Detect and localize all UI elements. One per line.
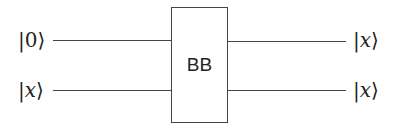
black-box-gate: BB bbox=[171, 7, 228, 123]
output-ket-top: |x⟩ bbox=[353, 30, 379, 50]
ket-symbol: x bbox=[360, 28, 371, 52]
quantum-circuit-diagram: |0⟩ |x⟩ BB |x⟩ |x⟩ bbox=[0, 0, 396, 129]
output-ket-bottom: |x⟩ bbox=[353, 80, 379, 100]
output-wire-bottom bbox=[228, 90, 346, 91]
ket-angle: ⟩ bbox=[371, 28, 379, 52]
ket-symbol: x bbox=[360, 78, 371, 102]
input-ket-0: |0⟩ bbox=[18, 30, 45, 50]
input-ket-x: |x⟩ bbox=[18, 80, 44, 100]
ket-bar: | bbox=[18, 78, 25, 102]
ket-bar: | bbox=[353, 28, 360, 52]
ket-angle: ⟩ bbox=[371, 78, 379, 102]
ket-angle: ⟩ bbox=[36, 78, 44, 102]
ket-bar: | bbox=[353, 78, 360, 102]
input-wire-top bbox=[53, 40, 171, 41]
ket-symbol: x bbox=[25, 78, 36, 102]
output-wire-top bbox=[228, 41, 346, 42]
ket-symbol: 0 bbox=[25, 28, 38, 52]
ket-bar: | bbox=[18, 28, 25, 52]
input-wire-bottom bbox=[53, 90, 171, 91]
ket-angle: ⟩ bbox=[37, 28, 45, 52]
gate-label: BB bbox=[187, 54, 212, 76]
